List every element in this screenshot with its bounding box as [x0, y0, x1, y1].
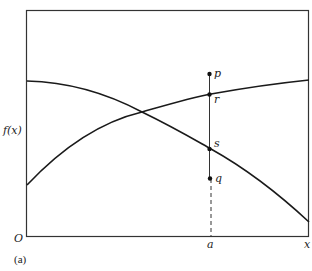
label-q: q [215, 172, 222, 185]
label-s: s [214, 137, 220, 150]
y-axis-label: f(x) [2, 124, 22, 137]
figure-caption: (a) [14, 253, 27, 266]
point-p [207, 72, 211, 76]
figure-diagram: p r s q f(x) O a x (a) [0, 0, 312, 271]
point-r [207, 92, 211, 96]
decreasing-curve [27, 81, 309, 222]
plot-frame [27, 11, 309, 237]
x-axis-label: x [304, 238, 311, 251]
point-q [208, 176, 212, 180]
point-s [207, 147, 211, 151]
label-p: p [214, 67, 221, 80]
label-r: r [214, 93, 220, 106]
origin-label: O [14, 232, 23, 245]
x-marker-label: a [207, 238, 214, 251]
increasing-curve [27, 80, 309, 185]
